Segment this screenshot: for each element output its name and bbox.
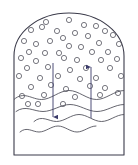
bubble xyxy=(118,73,123,78)
bubble xyxy=(25,101,30,106)
bubble xyxy=(37,75,42,80)
vessel-diagram xyxy=(0,0,138,165)
bubble xyxy=(93,75,98,80)
bubble xyxy=(114,56,119,61)
bubble xyxy=(21,38,26,43)
bubble xyxy=(115,90,120,95)
bubble xyxy=(45,64,50,69)
bubble xyxy=(66,43,71,48)
bubble xyxy=(67,67,72,72)
bubble xyxy=(42,50,47,55)
bubble xyxy=(33,41,38,46)
bubble xyxy=(74,57,79,62)
bubble xyxy=(55,73,60,78)
bubble xyxy=(39,24,44,29)
bubble xyxy=(43,19,48,24)
bubble xyxy=(93,23,98,28)
bubble xyxy=(54,28,59,33)
bubble xyxy=(47,38,52,43)
bubble xyxy=(26,49,31,54)
bubble xyxy=(85,33,90,38)
bubble-group xyxy=(16,17,123,106)
liquid-surface-line-2 xyxy=(16,105,124,112)
bubble xyxy=(61,55,66,60)
bubble xyxy=(60,35,65,40)
bubble xyxy=(81,22,86,27)
bubble xyxy=(107,65,112,70)
bubble xyxy=(105,49,110,54)
bubble xyxy=(16,73,21,78)
bubble xyxy=(35,101,40,106)
bubble xyxy=(24,65,29,70)
bubble xyxy=(89,49,94,54)
liquid-surface-line-3 xyxy=(34,115,124,122)
bubble xyxy=(28,84,33,89)
bubble xyxy=(78,44,83,49)
vessel-outline xyxy=(14,13,124,155)
bubble xyxy=(66,17,71,22)
bubble xyxy=(41,92,46,97)
liquid-wave-group xyxy=(14,91,124,133)
bubble xyxy=(72,30,77,35)
bubble xyxy=(87,83,92,88)
bubble xyxy=(72,94,77,99)
bubble xyxy=(18,55,23,60)
bubble xyxy=(110,32,115,37)
bubble xyxy=(97,92,102,97)
liquid-surface-line-1 xyxy=(14,91,124,100)
diagram-root xyxy=(0,0,138,165)
bubble xyxy=(98,57,103,62)
bubble xyxy=(102,28,107,33)
bubble xyxy=(33,58,38,63)
bubble xyxy=(28,27,33,32)
bubble xyxy=(83,65,88,70)
bubble xyxy=(96,40,101,45)
liquid-surface-line-4 xyxy=(20,126,96,132)
bubble xyxy=(77,76,82,81)
bubble xyxy=(102,85,107,90)
bubble xyxy=(116,41,121,46)
bubble xyxy=(56,50,61,55)
